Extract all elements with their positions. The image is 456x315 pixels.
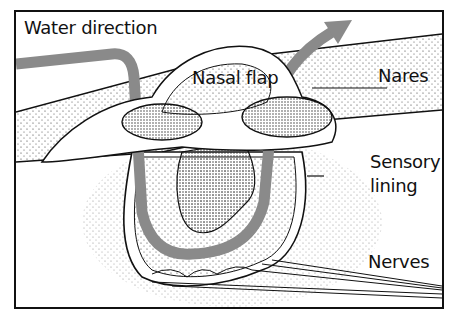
label-sensory-lining-1: Sensory: [370, 152, 440, 172]
label-nasal-flap: Nasal flap: [192, 68, 278, 88]
label-nerves: Nerves: [368, 252, 429, 272]
diagram-frame: Water direction Nasal flap Nares Sensory…: [14, 10, 444, 309]
label-sensory-lining-2: lining: [370, 176, 417, 196]
label-nares: Nares: [378, 66, 428, 86]
label-water-direction: Water direction: [24, 18, 157, 38]
